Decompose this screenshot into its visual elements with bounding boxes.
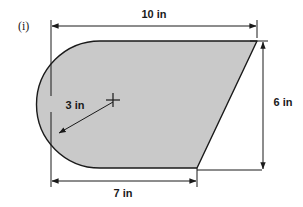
part-label: (i) <box>18 19 29 33</box>
dimension-label-bottom: 7 in <box>114 187 133 199</box>
technical-drawing-figure: 10 in 6 in 7 in 3 in (i) <box>0 0 303 207</box>
figure-canvas: 10 in 6 in 7 in 3 in (i) <box>0 0 303 207</box>
dimension-label-radius: 3 in <box>66 99 85 111</box>
dimension-label-right: 6 in <box>274 96 293 108</box>
dimension-label-top: 10 in <box>141 8 166 20</box>
